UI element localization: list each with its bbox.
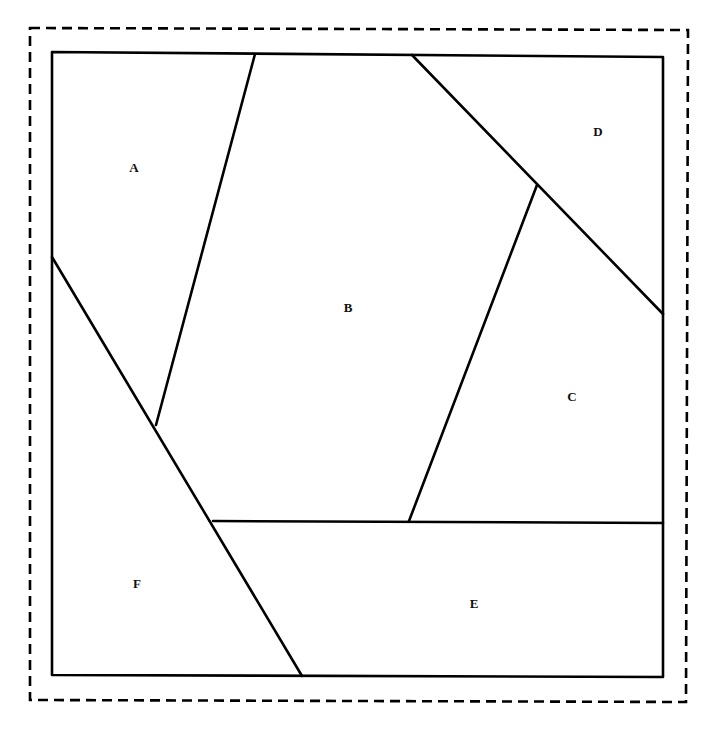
regions: [52, 52, 663, 677]
region-label-b: B: [344, 300, 353, 315]
region-label-f: F: [133, 576, 141, 591]
partition-diagram: ABCDEF: [0, 0, 710, 730]
region-label-e: E: [470, 596, 479, 611]
region-label-c: C: [567, 389, 576, 404]
region-label-d: D: [593, 124, 602, 139]
region-label-a: A: [129, 160, 139, 175]
